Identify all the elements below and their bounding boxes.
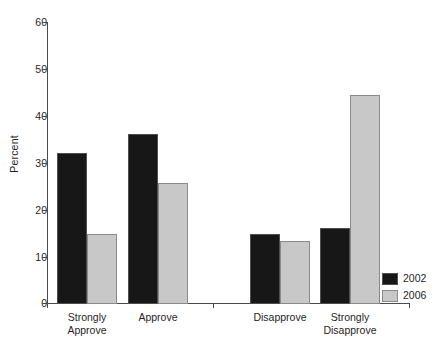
bar-2002-approve (128, 134, 158, 304)
x-tick-mark-middle (213, 303, 214, 308)
y-tick-40: 40 (0, 111, 47, 121)
bar-2006-approve (158, 183, 188, 304)
legend-item-2002: 2002 (382, 270, 426, 287)
bar-2002-disapprove (250, 234, 280, 304)
bar-2006-strongly-approve (87, 234, 117, 304)
legend-label-2002: 2002 (403, 273, 426, 284)
bar-2002-strongly-approve (57, 153, 87, 304)
legend-item-2006: 2006 (382, 287, 426, 304)
bar-2006-strongly-disapprove (350, 95, 380, 304)
y-tick-60: 60 (0, 17, 47, 27)
legend: 2002 2006 (382, 270, 426, 304)
legend-swatch-2006 (382, 290, 398, 302)
bar-chart: Percent 60 50 40 30 20 10 0 St (0, 0, 445, 348)
x-tick-mark-left (47, 303, 48, 308)
y-axis-line (47, 22, 48, 303)
y-tick-50: 50 (0, 64, 47, 74)
bar-2006-disapprove (280, 241, 310, 304)
y-tick-20: 20 (0, 205, 47, 215)
bar-2002-strongly-disapprove (320, 228, 350, 304)
x-label-strongly-disapprove: Strongly Disapprove (305, 311, 395, 336)
y-tick-10: 10 (0, 252, 47, 262)
y-axis-title: Percent (8, 124, 20, 184)
x-label-approve: Approve (113, 311, 203, 324)
y-tick-30: 30 (0, 158, 47, 168)
legend-swatch-2002 (382, 273, 398, 285)
legend-label-2006: 2006 (403, 290, 426, 301)
y-tick-0: 0 (0, 298, 47, 308)
